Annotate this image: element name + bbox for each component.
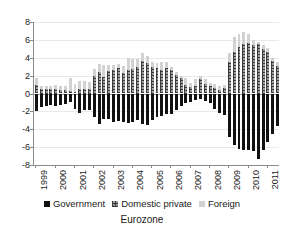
- bar-segment: [233, 37, 236, 52]
- bar-group: [238, 22, 241, 165]
- legend-label-government: Government: [53, 198, 105, 209]
- bar-group: [69, 22, 72, 165]
- bar-segment: [102, 77, 105, 94]
- bar-group: [276, 22, 279, 165]
- bar-group: [242, 22, 245, 165]
- bar-group: [156, 22, 159, 165]
- bar-segment: [151, 94, 154, 121]
- y-tick-label: 4: [4, 53, 30, 62]
- bar-group: [257, 22, 260, 165]
- bar-segment: [93, 76, 96, 94]
- x-tick-label: 1999: [40, 170, 49, 190]
- bar-segment: [40, 94, 43, 107]
- bar-segment: [69, 78, 72, 91]
- bar-segment: [49, 89, 52, 93]
- bar-segment: [78, 89, 81, 93]
- bar-group: [218, 22, 221, 165]
- bar-segment: [257, 42, 260, 45]
- bar-segment: [156, 68, 159, 94]
- bar-segment: [209, 83, 212, 87]
- bar-segment: [131, 94, 134, 123]
- bar-segment: [218, 90, 221, 94]
- bar-segment: [247, 94, 250, 150]
- bar-segment: [271, 61, 274, 93]
- bar-group: [213, 22, 216, 165]
- bar-segment: [112, 65, 115, 70]
- legend-item-domestic-private: Domestic private: [112, 198, 192, 209]
- x-tick-mark: [170, 165, 171, 168]
- bar-segment: [223, 94, 226, 115]
- y-tick-mark: [30, 76, 33, 77]
- bar-segment: [102, 65, 105, 77]
- bar-segment: [271, 58, 274, 62]
- bar-group: [64, 22, 67, 165]
- bar-segment: [271, 94, 274, 134]
- bar-segment: [107, 65, 110, 71]
- bar-segment: [54, 85, 57, 89]
- legend-item-government: Government: [44, 198, 105, 209]
- bar-segment: [238, 34, 241, 47]
- bar-segment: [233, 52, 236, 93]
- y-tick-label: -8: [4, 161, 30, 170]
- bar-segment: [98, 94, 101, 124]
- bar-group: [194, 22, 197, 165]
- bar-segment: [136, 94, 139, 121]
- bar-segment: [228, 94, 231, 138]
- bar-segment: [136, 67, 139, 94]
- bar-group: [165, 22, 168, 165]
- bar-segment: [165, 94, 168, 115]
- bar-segment: [262, 45, 265, 49]
- x-tick-label: 2011: [271, 170, 280, 189]
- bar-segment: [127, 58, 130, 71]
- bar-segment: [112, 70, 115, 93]
- bar-segment: [266, 48, 269, 52]
- bar-segment: [88, 89, 91, 93]
- bar-segment: [213, 84, 216, 88]
- y-tick-label: -2: [4, 107, 30, 116]
- bar-segment: [247, 43, 250, 93]
- bar-segment: [170, 94, 173, 115]
- bar-segment: [49, 86, 52, 89]
- bar-segment: [74, 84, 77, 92]
- y-tick-label: -4: [4, 125, 30, 134]
- bar-segment: [64, 86, 67, 90]
- bar-segment: [184, 78, 187, 84]
- bar-segment: [194, 86, 197, 93]
- bar-segment: [151, 62, 154, 66]
- bar-group: [209, 22, 212, 165]
- bar-segment: [252, 94, 255, 151]
- bar-segment: [45, 86, 48, 89]
- y-tick-label: 8: [4, 18, 30, 27]
- legend-label-foreign: Foreign: [208, 198, 240, 209]
- bar-group: [170, 22, 173, 165]
- x-tick-label: 2008: [214, 170, 223, 190]
- bar-segment: [184, 94, 187, 104]
- bar-segment: [209, 94, 212, 104]
- y-tick-mark: [30, 129, 33, 130]
- bar-segment: [117, 68, 120, 93]
- x-tick-mark: [132, 165, 133, 168]
- y-tick-label: 0: [4, 89, 30, 98]
- bar-group: [262, 22, 265, 165]
- legend-label-domestic-private: Domestic private: [121, 198, 192, 209]
- bar-group: [131, 22, 134, 165]
- y-tick-mark: [30, 111, 33, 112]
- bar-group: [146, 22, 149, 165]
- bar-group: [98, 22, 101, 165]
- bar-group: [127, 22, 130, 165]
- bar-segment: [136, 59, 139, 67]
- bar-group: [228, 22, 231, 165]
- chart-figure: 86420-2-4-6-8 19992000200120022003200420…: [0, 0, 284, 232]
- bar-segment: [204, 84, 207, 94]
- bar-segment: [40, 86, 43, 89]
- bar-segment: [194, 94, 197, 100]
- x-tick-label: 2005: [156, 170, 165, 190]
- x-tick-mark: [74, 165, 75, 168]
- bar-segment: [151, 67, 154, 94]
- bar-group: [266, 22, 269, 165]
- chart-title: Eurozone: [0, 214, 284, 226]
- bar-segment: [180, 94, 183, 107]
- bar-group: [45, 22, 48, 165]
- bar-segment: [59, 90, 62, 94]
- bar-segment: [204, 79, 207, 83]
